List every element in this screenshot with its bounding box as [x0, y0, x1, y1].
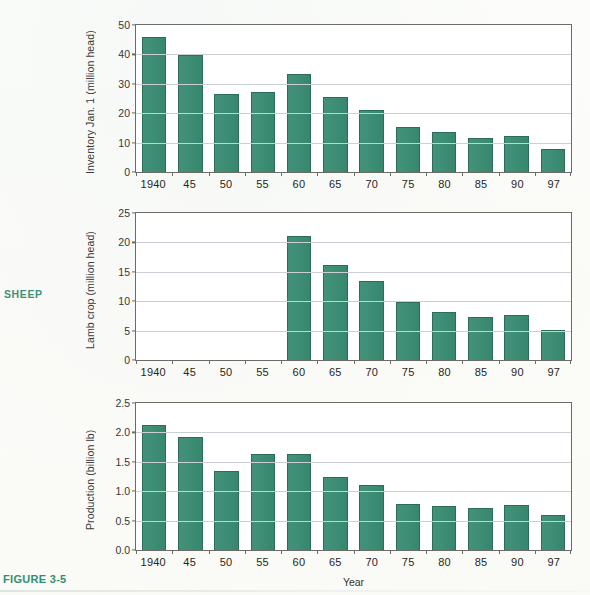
bar[interactable]	[432, 312, 457, 360]
bar[interactable]	[287, 454, 312, 550]
chart-lamb-crop: Lamb crop (million head) 0510152025 1940…	[84, 202, 574, 382]
bar[interactable]	[287, 236, 312, 360]
x-tick-label: 70	[354, 366, 390, 378]
x-tick-label: 90	[499, 178, 535, 190]
bar[interactable]	[251, 454, 276, 550]
bar-slot	[462, 403, 498, 550]
y-tick-label: 0	[124, 167, 136, 178]
chart-production-x-axis-label: Year	[135, 576, 572, 588]
x-tick-label: 75	[390, 178, 426, 190]
bar-slot	[281, 25, 317, 172]
bar-slot	[209, 403, 245, 550]
gridline	[136, 242, 571, 243]
x-tick-label: 85	[463, 178, 499, 190]
y-tick-label: 1.5	[115, 457, 136, 468]
x-tick-label: 65	[317, 178, 353, 190]
bar[interactable]	[142, 37, 167, 172]
x-tick-label: 70	[354, 556, 390, 568]
x-tick-label: 45	[171, 366, 207, 378]
gridline	[136, 331, 571, 332]
section-label-sheep: SHEEP	[4, 288, 43, 300]
gridline	[136, 84, 571, 85]
bar[interactable]	[214, 94, 239, 172]
bar-slot	[172, 403, 208, 550]
y-tick-label: 5	[124, 325, 136, 336]
bar[interactable]	[323, 477, 348, 550]
bar[interactable]	[396, 127, 421, 172]
bar-slot	[245, 403, 281, 550]
x-tick-label: 75	[390, 366, 426, 378]
bar[interactable]	[432, 132, 457, 172]
y-tick-label: 1.0	[115, 486, 136, 497]
bar[interactable]	[359, 281, 384, 360]
gridline	[136, 521, 571, 522]
x-tick-label: 90	[499, 556, 535, 568]
bar[interactable]	[287, 74, 312, 172]
bar[interactable]	[468, 317, 493, 361]
y-tick-label: 2.5	[115, 398, 136, 409]
y-tick-label: 20	[118, 237, 136, 248]
bar-slot	[317, 25, 353, 172]
bar-slot	[209, 25, 245, 172]
bar[interactable]	[214, 471, 239, 550]
bar[interactable]	[432, 506, 457, 550]
bar-slot	[499, 213, 535, 360]
bar-slot	[390, 213, 426, 360]
bar[interactable]	[396, 504, 421, 550]
x-tick-label: 80	[426, 178, 462, 190]
y-tick-label: 0	[124, 355, 136, 366]
x-tick-label: 60	[281, 366, 317, 378]
bar-slot	[172, 213, 208, 360]
gridline	[136, 54, 571, 55]
x-tick-label: 97	[536, 178, 572, 190]
bar[interactable]	[541, 149, 566, 172]
bar[interactable]	[504, 315, 529, 360]
chart-inventory-x-tick-labels: 19404550556065707580859097	[135, 178, 572, 190]
gridline	[136, 272, 571, 273]
x-tick-label: 55	[244, 556, 280, 568]
x-tick-label: 75	[390, 556, 426, 568]
gridline	[136, 462, 571, 463]
gridline	[136, 491, 571, 492]
bar[interactable]	[142, 425, 167, 550]
chart-lamb-crop-plot-area: 0510152025	[135, 212, 572, 361]
bar-slot	[136, 213, 172, 360]
x-tick-label: 90	[499, 366, 535, 378]
bar[interactable]	[504, 505, 529, 550]
y-tick-label: 2.0	[115, 427, 136, 438]
x-tick-label: 45	[171, 556, 207, 568]
x-tick-label: 50	[208, 178, 244, 190]
bar-slot	[209, 213, 245, 360]
x-tick-label: 55	[244, 366, 280, 378]
bar[interactable]	[178, 437, 203, 550]
bar[interactable]	[359, 485, 384, 550]
bar-slot	[390, 25, 426, 172]
bar-slot	[426, 403, 462, 550]
y-tick-label: 40	[118, 49, 136, 60]
x-tick-label: 80	[426, 366, 462, 378]
y-tick-label: 10	[118, 137, 136, 148]
bar[interactable]	[468, 508, 493, 550]
bar[interactable]	[323, 265, 348, 360]
x-tick-label: 65	[317, 556, 353, 568]
bar-slot	[462, 213, 498, 360]
chart-inventory: Inventory Jan. 1 (million head) 01020304…	[84, 14, 574, 194]
y-tick-label: 25	[118, 208, 136, 219]
y-tick-label: 0.0	[115, 545, 136, 556]
bar[interactable]	[251, 92, 276, 172]
bar-slot	[136, 403, 172, 550]
bar[interactable]	[541, 330, 566, 360]
bar[interactable]	[504, 136, 529, 172]
x-tick-label: 50	[208, 556, 244, 568]
y-tick-label: 0.5	[115, 515, 136, 526]
bar-slot	[317, 213, 353, 360]
bar[interactable]	[359, 110, 384, 172]
chart-production: Production (billion lb) 0.00.51.01.52.02…	[84, 392, 574, 588]
chart-lamb-crop-y-axis-label: Lamb crop (million head)	[84, 210, 96, 370]
y-tick-label: 50	[118, 20, 136, 31]
chart-production-plot-area: 0.00.51.01.52.02.5	[135, 402, 572, 551]
figure-caption-label: FIGURE 3-5	[3, 573, 67, 585]
bar[interactable]	[323, 97, 348, 172]
x-tick-label: 1940	[135, 556, 171, 568]
x-tick-label: 97	[536, 366, 572, 378]
